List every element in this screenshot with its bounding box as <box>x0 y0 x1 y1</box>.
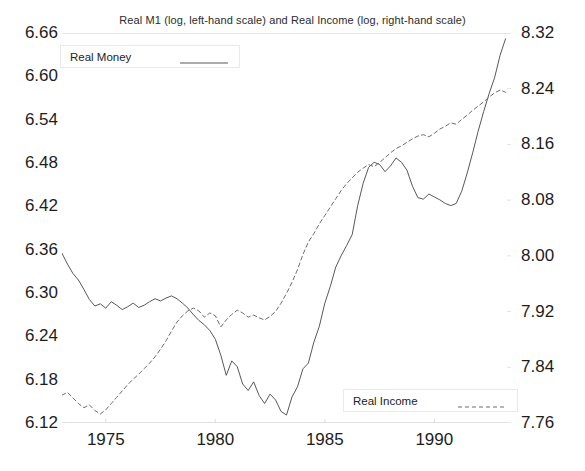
left-axis-tick-label: 6.12 <box>2 413 58 433</box>
legend-label-real-income: Real Income <box>353 395 418 407</box>
right-axis-tick-label: 8.24 <box>521 79 581 99</box>
left-axis-tick-label: 6.24 <box>2 326 58 346</box>
right-axis-tick-label: 7.84 <box>521 357 581 377</box>
chart-figure: Real M1 (log, left-hand scale) and Real … <box>0 0 585 471</box>
chart-title: Real M1 (log, left-hand scale) and Real … <box>0 14 585 26</box>
x-axis-tick-label: 1990 <box>404 430 464 450</box>
right-axis-tick-label: 8.00 <box>521 246 581 266</box>
legend-sample-solid-line <box>178 53 230 61</box>
legend-real-money: Real Money <box>60 45 240 68</box>
left-axis-tick-label: 6.30 <box>2 283 58 303</box>
legend-label-real-money: Real Money <box>70 51 131 63</box>
legend-sample-dashed-line <box>456 397 508 405</box>
left-axis-tick-label: 6.60 <box>2 66 58 86</box>
right-axis-tick-label: 8.32 <box>521 23 581 43</box>
left-axis-tick-label: 6.54 <box>2 110 58 130</box>
right-axis-tick-label: 7.76 <box>521 413 581 433</box>
left-axis-tick-label: 6.48 <box>2 153 58 173</box>
plot-background <box>62 33 511 423</box>
right-axis-tick-label: 8.08 <box>521 190 581 210</box>
x-axis-tick-label: 1975 <box>76 430 136 450</box>
x-axis-tick-label: 1980 <box>185 430 245 450</box>
plot-svg <box>62 33 511 423</box>
left-axis-tick-label: 6.18 <box>2 370 58 390</box>
x-axis-tick-label: 1985 <box>295 430 355 450</box>
left-axis-tick-label: 6.36 <box>2 240 58 260</box>
right-axis-tick-label: 7.92 <box>521 302 581 322</box>
left-axis-tick-label: 6.42 <box>2 196 58 216</box>
left-axis-tick-label: 6.66 <box>2 23 58 43</box>
legend-real-income: Real Income <box>343 389 518 412</box>
plot-area <box>62 33 511 423</box>
right-axis-tick-label: 8.16 <box>521 134 581 154</box>
